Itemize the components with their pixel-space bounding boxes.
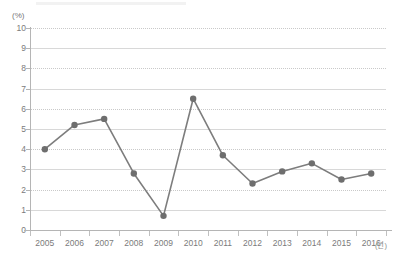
y-tick-mark-5 bbox=[26, 129, 30, 130]
y-tick-mark-6 bbox=[26, 109, 30, 110]
x-tick-mark-4 bbox=[149, 231, 150, 236]
y-tick-mark-2 bbox=[26, 190, 30, 191]
x-tick-mark-10 bbox=[327, 231, 328, 236]
x-axis-unit-label: (년) bbox=[375, 239, 387, 250]
y-tick-mark-0 bbox=[26, 230, 30, 231]
data-point-2011 bbox=[220, 152, 226, 158]
data-point-2014 bbox=[309, 160, 315, 166]
x-tick-mark-12 bbox=[386, 231, 387, 236]
y-tick-mark-9 bbox=[26, 48, 30, 49]
x-tick-mark-7 bbox=[238, 231, 239, 236]
x-tick-label-2013: 2013 bbox=[273, 238, 292, 248]
data-point-2010 bbox=[190, 96, 196, 102]
x-tick-mark-9 bbox=[297, 231, 298, 236]
x-tick-mark-0 bbox=[30, 231, 31, 236]
data-point-2016 bbox=[368, 170, 374, 176]
data-point-2013 bbox=[279, 168, 285, 174]
data-point-2007 bbox=[101, 116, 107, 122]
x-tick-label-2010: 2010 bbox=[184, 238, 203, 248]
x-tick-mark-8 bbox=[267, 231, 268, 236]
x-tick-mark-1 bbox=[60, 231, 61, 236]
y-tick-mark-1 bbox=[26, 210, 30, 211]
y-tick-mark-8 bbox=[26, 68, 30, 69]
series-markers bbox=[42, 96, 375, 220]
data-series-layer bbox=[0, 0, 396, 257]
x-tick-label-2008: 2008 bbox=[124, 238, 143, 248]
data-point-2012 bbox=[249, 180, 255, 186]
y-tick-mark-3 bbox=[26, 169, 30, 170]
x-tick-mark-11 bbox=[356, 231, 357, 236]
series-line bbox=[45, 99, 371, 216]
x-tick-label-2014: 2014 bbox=[302, 238, 321, 248]
x-tick-label-2005: 2005 bbox=[35, 238, 54, 248]
x-tick-label-2011: 2011 bbox=[214, 238, 232, 248]
data-point-2009 bbox=[160, 213, 166, 219]
x-tick-mark-2 bbox=[89, 231, 90, 236]
line-chart: (%) 012345678910 20052006200720082009201… bbox=[0, 0, 396, 257]
data-point-2008 bbox=[131, 170, 137, 176]
data-point-2005 bbox=[42, 146, 48, 152]
y-tick-mark-10 bbox=[26, 28, 30, 29]
x-tick-label-2006: 2006 bbox=[65, 238, 84, 248]
y-tick-mark-4 bbox=[26, 149, 30, 150]
x-tick-mark-3 bbox=[119, 231, 120, 236]
data-point-2006 bbox=[71, 122, 77, 128]
x-tick-mark-6 bbox=[208, 231, 209, 236]
x-tick-label-2015: 2015 bbox=[332, 238, 351, 248]
x-tick-label-2012: 2012 bbox=[243, 238, 262, 248]
data-point-2015 bbox=[338, 176, 344, 182]
x-tick-mark-5 bbox=[178, 231, 179, 236]
y-tick-mark-7 bbox=[26, 89, 30, 90]
x-tick-label-2009: 2009 bbox=[154, 238, 173, 248]
x-tick-label-2007: 2007 bbox=[95, 238, 114, 248]
